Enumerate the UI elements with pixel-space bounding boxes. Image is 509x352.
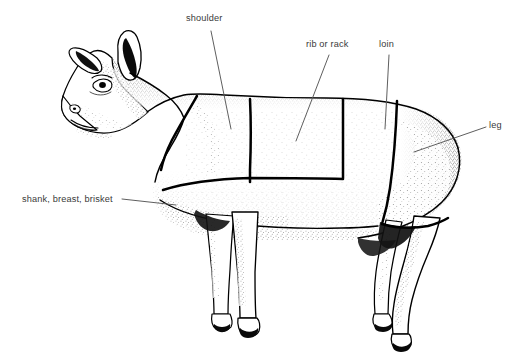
- label-rib-or-rack: rib or rack: [306, 39, 349, 50]
- label-loin: loin: [379, 39, 394, 50]
- label-shoulder: shoulder: [186, 13, 222, 24]
- sheep-illustration: [0, 0, 509, 352]
- label-shank-breast-brisket: shank, breast, brisket: [22, 194, 113, 205]
- body-shading: [100, 40, 493, 244]
- butcher-cuts-diagram: shoulder rib or rack loin leg shank, bre…: [0, 0, 509, 352]
- cut-line-shoulder-rib: [250, 99, 251, 182]
- label-leg: leg: [489, 120, 502, 131]
